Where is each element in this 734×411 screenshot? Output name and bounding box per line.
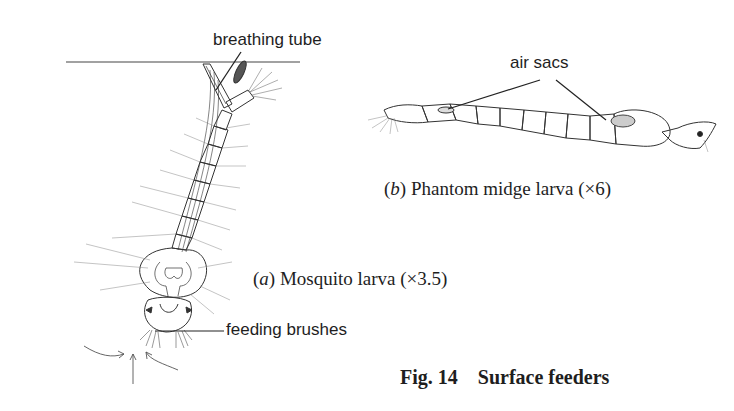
figure-number: Fig. 14 bbox=[400, 366, 458, 388]
breathing-tube-label: breathing tube bbox=[213, 30, 322, 50]
phantom-midge-larva-drawing bbox=[368, 104, 716, 152]
panel-b-caption: (b) Phantom midge larva (×6) bbox=[384, 178, 611, 200]
panel-b-letter: b bbox=[390, 178, 400, 199]
figure-caption: Fig. 14Surface feeders bbox=[400, 366, 609, 389]
air-sacs-label: air sacs bbox=[510, 53, 569, 73]
mosquito-larva-drawing bbox=[74, 59, 282, 348]
water-current-arrows bbox=[84, 346, 178, 384]
feeding-brushes-label: feeding brushes bbox=[226, 320, 347, 340]
panel-a-magnification: (×3.5) bbox=[400, 268, 447, 289]
figure-illustration bbox=[0, 0, 734, 411]
panel-a-name: Mosquito larva bbox=[280, 268, 396, 289]
panel-a-caption: (a) Mosquito larva (×3.5) bbox=[253, 268, 447, 290]
panel-a-letter: a bbox=[259, 268, 269, 289]
air-sac-pointer-1 bbox=[448, 80, 540, 109]
figure-title: Surface feeders bbox=[478, 366, 610, 388]
panel-b-magnification: (×6) bbox=[578, 178, 611, 199]
panel-b-name: Phantom midge larva bbox=[411, 178, 574, 199]
